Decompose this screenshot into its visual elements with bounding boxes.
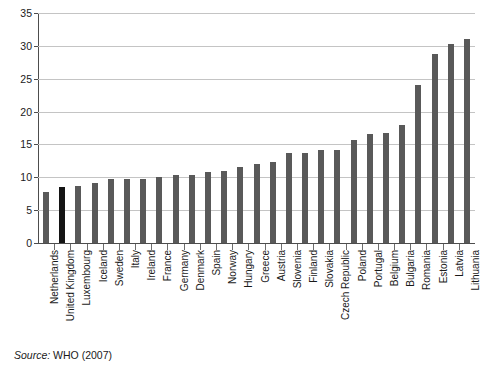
bar <box>173 175 179 243</box>
y-tick-label-20: 20 <box>2 107 32 117</box>
bar <box>237 167 243 243</box>
bar <box>399 125 405 243</box>
bar <box>383 133 389 243</box>
source-label: Source: <box>14 349 50 361</box>
x-axis-label: Luxembourg <box>82 250 92 306</box>
x-axis-label: Austria <box>277 250 287 281</box>
bar <box>254 164 260 243</box>
bar <box>270 162 276 243</box>
x-axis-label: Germany <box>180 250 190 291</box>
x-axis-label: Denmark <box>196 250 206 291</box>
x-axis-label: Norway <box>228 250 238 284</box>
gridline-30 <box>38 46 475 47</box>
x-axis-label: Italy <box>131 250 141 268</box>
y-tick-label-30: 30 <box>2 41 32 51</box>
x-axis-label: Portugal <box>374 250 384 287</box>
gridline-20 <box>38 112 475 113</box>
source-value: WHO (2007) <box>53 349 112 361</box>
bar <box>351 140 357 243</box>
source-note: Source: WHO (2007) <box>14 349 112 361</box>
bar <box>205 172 211 243</box>
x-axis-label: Poland <box>358 250 368 281</box>
bar <box>432 54 438 243</box>
x-axis-label: Sweden <box>115 250 125 286</box>
bar <box>156 177 162 243</box>
x-axis-label: Ireland <box>147 250 157 281</box>
bar <box>59 187 65 243</box>
bar <box>108 179 114 243</box>
bar <box>92 183 98 243</box>
y-tick-15 <box>34 144 38 145</box>
y-tick-label-10: 10 <box>2 172 32 182</box>
bar <box>189 175 195 243</box>
y-tick-10 <box>34 177 38 178</box>
bar <box>367 134 373 243</box>
x-axis-label: Greece <box>261 250 271 283</box>
bar <box>415 85 421 243</box>
x-axis-label: Romania <box>422 250 432 290</box>
y-tick-20 <box>34 112 38 113</box>
bar <box>448 44 454 243</box>
y-tick-label-5: 5 <box>2 205 32 215</box>
gridline-35 <box>38 13 475 14</box>
x-axis-label: Iceland <box>99 250 109 282</box>
x-axis-label: Slovenia <box>293 250 303 288</box>
bar <box>43 192 49 243</box>
x-axis-label: France <box>163 250 173 281</box>
x-axis-label: Latvia <box>455 250 465 277</box>
x-axis-label: United Kingdom <box>66 250 76 321</box>
bar <box>75 186 81 243</box>
x-axis-category-labels: NetherlandsUnited KingdomLuxembourgIcela… <box>38 250 475 345</box>
x-axis-label: Finland <box>309 250 319 283</box>
x-axis-label: Czech Republic <box>341 250 351 320</box>
bar <box>124 179 130 243</box>
x-axis-label: Spain <box>212 250 222 276</box>
bar <box>140 179 146 243</box>
x-axis-label: Lithuania <box>471 250 481 291</box>
y-axis-tick-labels: 05101520253035 <box>0 0 32 375</box>
y-tick-label-35: 35 <box>2 8 32 18</box>
y-tick-5 <box>34 210 38 211</box>
bar <box>302 153 308 243</box>
gridline-15 <box>38 144 475 145</box>
y-tick-0 <box>34 243 38 244</box>
y-tick-25 <box>34 79 38 80</box>
y-tick-label-15: 15 <box>2 139 32 149</box>
bar <box>221 171 227 243</box>
y-tick-label-0: 0 <box>2 238 32 248</box>
x-axis-label: Netherlands <box>50 250 60 304</box>
bar <box>286 153 292 243</box>
x-axis-label: Estonia <box>439 250 449 283</box>
bar <box>318 150 324 243</box>
x-axis-label: Belgium <box>390 250 400 286</box>
plot-area <box>38 13 475 243</box>
x-axis-label: Bulgaria <box>406 250 416 287</box>
y-tick-label-25: 25 <box>2 74 32 84</box>
y-tick-30 <box>34 46 38 47</box>
gridline-25 <box>38 79 475 80</box>
x-axis-label: Hungary <box>244 250 254 288</box>
bar <box>334 150 340 243</box>
y-tick-35 <box>34 13 38 14</box>
x-axis-label: Slovakia <box>325 250 335 288</box>
bar <box>464 39 470 243</box>
